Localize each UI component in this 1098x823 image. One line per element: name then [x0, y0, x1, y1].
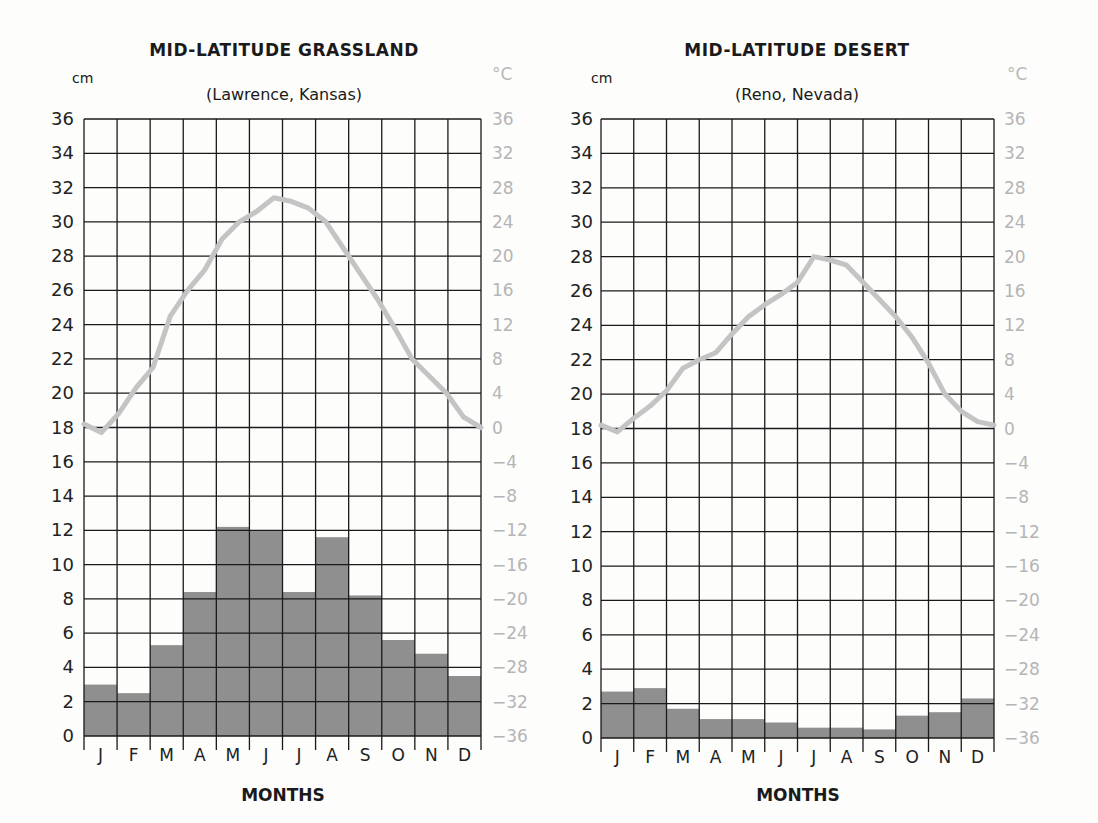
svg-text:34: 34	[570, 142, 593, 163]
chart-plot-desert: 0246810121416182022242628303234363632282…	[0, 0, 1098, 823]
svg-text:J: J	[614, 747, 620, 767]
precipitation-bar	[863, 729, 896, 738]
svg-text:A: A	[841, 747, 853, 767]
svg-text:−4: −4	[1004, 453, 1029, 473]
chart-title: MID-LATITUDE DESERT	[597, 40, 997, 60]
svg-text:−36: −36	[1004, 728, 1040, 748]
svg-text:−16: −16	[1004, 556, 1040, 576]
svg-text:2: 2	[582, 693, 593, 714]
svg-text:20: 20	[570, 383, 593, 404]
svg-text:32: 32	[570, 177, 593, 198]
left-axis-unit: cm	[591, 70, 612, 86]
precipitation-bar	[896, 716, 929, 738]
precipitation-bar	[929, 712, 962, 738]
svg-text:8: 8	[1004, 350, 1015, 370]
svg-text:10: 10	[570, 555, 593, 576]
svg-text:M: M	[676, 747, 691, 767]
x-axis-label: MONTHS	[698, 785, 898, 805]
svg-text:30: 30	[570, 211, 593, 232]
month-ticks: JFMAMJJASOND	[614, 747, 984, 767]
svg-text:22: 22	[570, 349, 593, 370]
svg-text:24: 24	[1004, 212, 1026, 232]
svg-text:6: 6	[582, 624, 593, 645]
svg-text:28: 28	[570, 246, 593, 267]
svg-text:O: O	[905, 747, 918, 767]
precipitation-bar	[667, 709, 700, 738]
precipitation-bar	[699, 719, 732, 738]
svg-text:D: D	[971, 747, 984, 767]
precipitation-bars	[601, 688, 994, 738]
precipitation-bar	[798, 728, 831, 738]
svg-text:4: 4	[582, 658, 593, 679]
svg-text:−28: −28	[1004, 659, 1040, 679]
svg-text:−32: −32	[1004, 694, 1040, 714]
svg-text:0: 0	[582, 727, 593, 748]
left-axis-ticks: 024681012141618202224262830323436	[570, 108, 593, 748]
temperature-line	[601, 257, 994, 432]
svg-text:14: 14	[570, 486, 593, 507]
svg-text:28: 28	[1004, 178, 1026, 198]
svg-text:−20: −20	[1004, 590, 1040, 610]
chart-panel-desert: MID-LATITUDE DESERT cm (Reno, Nevada) °C…	[0, 0, 1098, 823]
svg-text:M: M	[741, 747, 756, 767]
right-axis-ticks: 36322824201612840−4−8−12−16−20−24−28−32−…	[1004, 109, 1040, 748]
svg-text:S: S	[874, 747, 885, 767]
svg-text:J: J	[810, 747, 816, 767]
precipitation-bar	[961, 698, 994, 738]
svg-text:N: N	[939, 747, 952, 767]
svg-text:−12: −12	[1004, 522, 1040, 542]
svg-text:A: A	[710, 747, 722, 767]
grid	[601, 119, 994, 752]
svg-text:20: 20	[1004, 247, 1026, 267]
svg-text:4: 4	[1004, 384, 1015, 404]
svg-text:8: 8	[582, 589, 593, 610]
precipitation-bar	[634, 688, 667, 738]
precipitation-bar	[830, 728, 863, 738]
svg-text:26: 26	[570, 280, 593, 301]
svg-text:12: 12	[1004, 315, 1026, 335]
svg-text:0: 0	[1004, 419, 1015, 439]
svg-text:F: F	[645, 747, 655, 767]
svg-text:18: 18	[570, 418, 593, 439]
svg-text:36: 36	[1004, 109, 1026, 129]
precipitation-bar	[601, 692, 634, 738]
svg-text:16: 16	[1004, 281, 1026, 301]
svg-text:32: 32	[1004, 143, 1026, 163]
svg-text:16: 16	[570, 452, 593, 473]
svg-text:36: 36	[570, 108, 593, 129]
svg-text:−24: −24	[1004, 625, 1040, 645]
precipitation-bar	[765, 723, 798, 738]
right-axis-unit: °C	[1007, 64, 1027, 84]
svg-text:J: J	[778, 747, 784, 767]
svg-text:24: 24	[570, 314, 593, 335]
svg-text:12: 12	[570, 521, 593, 542]
precipitation-bar	[732, 719, 765, 738]
svg-text:−8: −8	[1004, 487, 1029, 507]
chart-subtitle: (Reno, Nevada)	[597, 85, 997, 104]
